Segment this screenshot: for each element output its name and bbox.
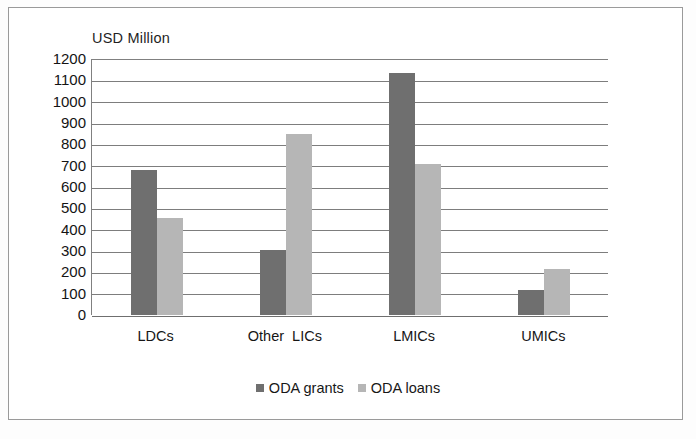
y-axis-tick-label: 1100	[54, 72, 86, 87]
bar-group	[221, 60, 350, 315]
y-axis-tick-label: 1200	[53, 51, 86, 66]
legend-swatch-icon	[256, 384, 264, 392]
legend-entry[interactable]: ODA grants	[256, 380, 344, 396]
bar-grants[interactable]	[518, 290, 544, 315]
y-axis-title: USD Million	[92, 30, 170, 46]
x-axis-category-label: LMICs	[350, 328, 479, 344]
bar-group	[92, 60, 221, 315]
y-axis-tick-label: 400	[61, 222, 86, 237]
legend-label: ODA grants	[269, 380, 344, 396]
bar-loans[interactable]	[415, 164, 441, 315]
bar-group	[480, 60, 609, 315]
y-axis-tick-label: 800	[61, 136, 86, 151]
bar-series-container	[92, 60, 608, 315]
x-axis-category-labels: LDCsOther LICsLMICsUMICs	[91, 328, 608, 350]
chart-legend: ODA grantsODA loans	[0, 380, 696, 396]
x-axis-category-label: LDCs	[91, 328, 220, 344]
bar-loans[interactable]	[286, 134, 312, 315]
bar-group	[351, 60, 480, 315]
y-axis-tick-label: 900	[61, 115, 86, 130]
bar-loans[interactable]	[157, 218, 183, 315]
y-axis-tick-label: 100	[61, 286, 86, 301]
legend-entry[interactable]: ODA loans	[358, 380, 440, 396]
y-axis-tick-label: 300	[61, 243, 86, 258]
bar-grants[interactable]	[260, 250, 286, 315]
legend-label: ODA loans	[371, 380, 440, 396]
bar-grants[interactable]	[389, 73, 415, 315]
y-axis-tick-labels: 1200110010009008007006005004003002001000	[28, 59, 86, 315]
y-axis-tick-label: 0	[78, 307, 86, 322]
bar-grants[interactable]	[131, 170, 157, 315]
y-axis-tick-label: 200	[61, 264, 86, 279]
plot-area	[91, 59, 608, 315]
chart-figure: USD Million 1200110010009008007006005004…	[0, 0, 696, 439]
y-axis-tick-label: 1000	[53, 94, 86, 109]
bar-loans[interactable]	[544, 269, 570, 315]
axis-baseline	[92, 316, 608, 317]
y-axis-tick-label: 600	[61, 179, 86, 194]
x-axis-category-label: Other LICs	[220, 328, 349, 344]
y-axis-tick-label: 500	[61, 200, 86, 215]
x-axis-category-label: UMICs	[479, 328, 608, 344]
y-axis-tick-label: 700	[61, 158, 86, 173]
legend-swatch-icon	[358, 384, 366, 392]
